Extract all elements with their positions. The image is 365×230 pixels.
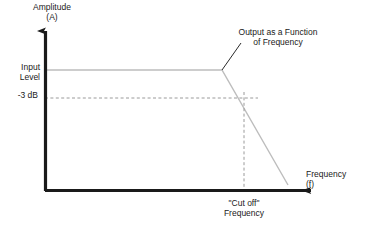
filter-response-figure: Amplitude (A) Input Level -3 dB Frequenc… <box>0 0 365 230</box>
minus-3db-tick-label: -3 dB <box>0 91 38 101</box>
x-axis-title: Frequency (f) <box>306 170 365 189</box>
response-curve <box>45 70 288 185</box>
response-curve-annotation-label: Output as a Function of Frequency <box>226 28 330 47</box>
cutoff-frequency-tick-label: "Cut off" Frequency <box>199 199 289 218</box>
y-axis-title: Amplitude (A) <box>6 3 98 22</box>
input-level-tick-label: Input Level <box>0 63 40 82</box>
